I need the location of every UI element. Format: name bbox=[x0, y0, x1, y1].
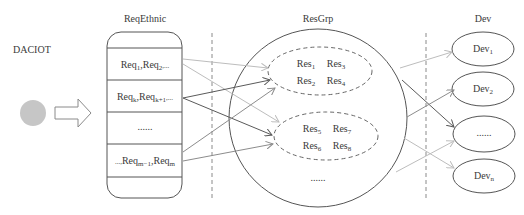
source-node-icon bbox=[20, 100, 46, 126]
device-1: Dev1 bbox=[452, 32, 514, 66]
column-header-dev: Dev bbox=[475, 13, 492, 24]
req-ethnic-stack: Req1,Req2,... Reqk,Reqk+1,... ...... ...… bbox=[107, 32, 182, 198]
res-subgroup-2: Res5 Res7 Res6 Res8 bbox=[274, 112, 378, 160]
edge-arrow bbox=[396, 141, 454, 172]
device-2: Dev2 bbox=[452, 72, 514, 106]
edge-arrow bbox=[402, 80, 454, 127]
column-header-res: ResGrp bbox=[303, 13, 334, 24]
device-more: ...... bbox=[453, 116, 515, 152]
svg-text:......: ...... bbox=[477, 127, 492, 138]
hollow-arrow-icon bbox=[55, 99, 91, 127]
column-header-req: ReqEthnic bbox=[124, 13, 167, 24]
edge-arrow bbox=[407, 90, 454, 117]
res-more-ellipsis: ...... bbox=[311, 172, 326, 183]
device-n: Devn bbox=[453, 159, 515, 193]
req-row-ellipsis: ...... bbox=[138, 121, 153, 132]
architecture-diagram: DACIOT ReqEthnic ResGrp Dev Req1,Req2,..… bbox=[0, 0, 524, 215]
system-title: DACIOT bbox=[13, 44, 51, 55]
res-subgroup-1: Res1 Res3 Res2 Res4 bbox=[268, 47, 372, 95]
